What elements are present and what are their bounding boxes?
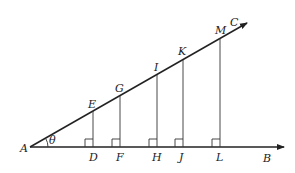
label-f: F <box>115 151 124 164</box>
label-a: A <box>19 142 28 155</box>
label-e: E <box>87 98 96 111</box>
similar-triangles-diagram: A θ B C D F H J L E G I K M <box>0 0 295 173</box>
label-c: C <box>230 16 239 29</box>
label-theta: θ <box>49 134 56 147</box>
angle-arc <box>46 138 48 147</box>
ray-ac <box>30 23 247 147</box>
label-b: B <box>262 152 271 165</box>
label-i: I <box>153 61 159 74</box>
perpendicular-kj <box>175 60 183 147</box>
label-j: J <box>177 151 184 164</box>
perpendicular-ih <box>149 75 157 147</box>
label-h: H <box>151 151 162 164</box>
label-l: L <box>215 151 223 164</box>
perpendicular-gf <box>112 96 120 147</box>
label-m: M <box>214 24 227 37</box>
perpendicular-ed <box>85 111 93 147</box>
label-d: D <box>88 151 98 164</box>
label-g: G <box>115 82 124 95</box>
label-k: K <box>177 45 187 58</box>
perpendicular-ml <box>212 38 220 147</box>
